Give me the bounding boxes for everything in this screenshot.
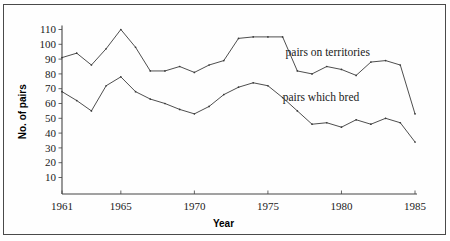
x-tick-label: 1985 [404,200,427,212]
data-point-marker [61,57,63,59]
data-point-marker [326,66,328,68]
data-point-marker [282,36,284,38]
data-point-marker [120,29,122,31]
data-point-marker [164,70,166,72]
data-point-marker [149,98,151,100]
data-point-marker [355,119,357,121]
data-point-marker [296,70,298,72]
y-tick-label: 10 [45,171,57,183]
data-point-marker [91,64,93,66]
data-point-marker [194,72,196,74]
data-point-marker [135,46,137,48]
x-axis-tick-labels: 196119651970197519801985 [51,200,427,212]
data-point-marker [355,75,357,77]
data-point-marker [179,66,181,68]
data-point-marker [341,126,343,128]
data-point-marker [179,109,181,111]
data-point-marker [76,100,78,102]
data-point-marker [208,106,210,108]
y-tick-label: 110 [40,23,57,35]
data-point-marker [267,85,269,87]
data-point-marker [414,141,416,143]
data-point-marker [414,113,416,115]
annotation-pairs-which-bred: pairs which bred [283,91,360,104]
data-point-marker [252,36,254,38]
plot-area: 102030405060708090100110 196119651970197… [0,0,450,241]
series-line-pairs-on-territories [62,30,415,114]
data-point-marker [135,91,137,93]
data-point-marker [105,48,107,50]
data-point-marker [164,103,166,105]
data-point-marker [399,64,401,66]
data-point-marker [326,122,328,124]
data-point-marker [194,113,196,115]
data-point-marker [120,76,122,78]
y-tick-label: 90 [45,53,57,65]
data-point-marker [385,60,387,62]
y-tick-label: 40 [45,127,57,139]
data-point-marker [238,38,240,40]
data-point-marker [208,64,210,66]
x-tick-label: 1975 [257,200,280,212]
data-point-marker [223,60,225,62]
data-point-marker [385,117,387,119]
x-tick-label: 1970 [183,200,206,212]
y-tick-label: 60 [45,97,57,109]
y-tick-label: 30 [45,142,57,154]
y-tick-label: 80 [45,68,57,80]
y-tick-label: 70 [45,82,57,94]
line-chart-svg: 102030405060708090100110 196119651970197… [0,0,450,241]
data-point-marker [341,69,343,71]
data-point-marker [61,91,63,93]
x-tick-label: 1965 [110,200,133,212]
data-point-marker [370,61,372,63]
y-tick-label: 100 [40,38,57,50]
chart-figure: 102030405060708090100110 196119651970197… [0,0,450,241]
annotation-pairs-on-territories: pairs on territories [286,46,371,59]
data-point-marker [296,110,298,112]
data-point-marker [76,52,78,54]
data-point-marker [311,73,313,75]
data-point-marker [105,85,107,87]
y-tick-label: 20 [45,156,57,168]
data-point-marker [267,36,269,38]
x-tick-label: 1980 [330,200,353,212]
data-point-marker [311,123,313,125]
data-point-marker [149,70,151,72]
x-axis-title: Year [213,218,234,229]
data-point-marker [238,86,240,88]
y-axis-title: No. of pairs [17,84,28,139]
data-point-marker [370,123,372,125]
data-point-marker [399,122,401,124]
y-axis-tick-labels: 102030405060708090100110 [40,23,57,183]
data-point-marker [91,110,93,112]
y-tick-label: 50 [45,112,57,124]
data-point-marker [223,94,225,96]
x-tick-label: 1961 [51,200,73,212]
data-point-marker [252,82,254,84]
